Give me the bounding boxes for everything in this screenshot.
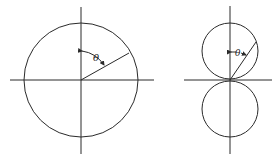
angle-arc-right (241, 53, 246, 55)
theta-label: θ (93, 52, 99, 63)
radius-line (81, 53, 129, 80)
diagram-canvas: θ θ (0, 0, 276, 162)
theta-label: θ (235, 48, 241, 58)
radius-line (230, 42, 256, 80)
right-figure: θ (184, 6, 272, 154)
left-figure: θ (10, 7, 154, 154)
